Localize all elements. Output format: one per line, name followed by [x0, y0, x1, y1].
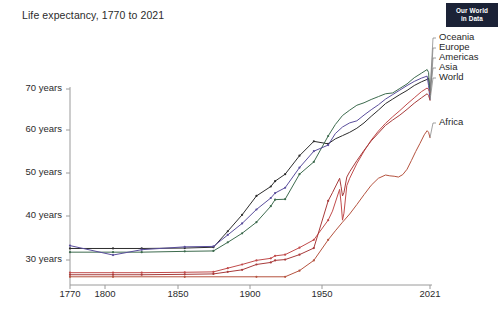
series-point-americas	[255, 208, 257, 210]
chart-container: Life expectancy, 1770 to 2021 Our World …	[0, 0, 502, 318]
y-tick-label: 60 years	[8, 123, 62, 134]
series-point-americas	[241, 222, 243, 224]
series-point-world	[274, 259, 276, 261]
series-point-americas	[313, 150, 315, 152]
series-point-asia	[298, 247, 300, 249]
y-tick-label: 70 years	[8, 82, 62, 93]
series-point-europe	[327, 135, 329, 137]
series-point-oceania	[270, 185, 272, 187]
plot-area	[0, 0, 502, 318]
series-point-americas	[270, 197, 272, 199]
series-point-americas	[69, 245, 71, 247]
series-point-asia	[327, 219, 329, 221]
series-point-africa	[327, 239, 329, 241]
series-point-africa	[184, 276, 186, 278]
series-point-europe	[227, 241, 229, 243]
series-point-oceania	[274, 180, 276, 182]
series-point-europe	[284, 198, 286, 200]
series-point-americas	[327, 144, 329, 146]
y-tick-label: 50 years	[8, 166, 62, 177]
series-point-world	[141, 274, 143, 276]
series-line-world	[70, 94, 430, 275]
series-point-asia	[227, 267, 229, 269]
series-point-africa	[298, 270, 300, 272]
series-point-world	[69, 274, 71, 276]
series-point-americas	[227, 234, 229, 236]
x-tick-label: 1770	[50, 288, 90, 299]
series-point-europe	[241, 232, 243, 234]
series-point-world	[270, 261, 272, 263]
series-point-europe	[313, 161, 315, 163]
series-point-oceania	[298, 155, 300, 157]
x-tick-label: 1850	[158, 288, 198, 299]
series-point-americas	[112, 254, 114, 256]
series-point-world	[212, 273, 214, 275]
series-point-europe	[255, 221, 257, 223]
series-point-europe	[69, 251, 71, 253]
series-point-world	[184, 273, 186, 275]
series-point-europe	[212, 250, 214, 252]
x-tick-label: 1950	[302, 288, 342, 299]
x-tick-label: 2021	[410, 288, 450, 299]
series-point-oceania	[313, 140, 315, 142]
series-point-oceania	[112, 247, 114, 249]
series-point-americas	[284, 187, 286, 189]
series-point-africa	[255, 276, 257, 278]
series-point-europe	[141, 251, 143, 253]
series-point-africa	[112, 276, 114, 278]
series-point-world	[284, 258, 286, 260]
series-point-americas	[298, 167, 300, 169]
series-point-asia	[184, 271, 186, 273]
series-point-asia	[284, 254, 286, 256]
series-point-americas	[274, 192, 276, 194]
series-line-europe	[70, 70, 430, 253]
series-point-world	[241, 269, 243, 271]
series-point-oceania	[241, 214, 243, 216]
series-point-europe	[298, 173, 300, 175]
series-point-europe	[274, 199, 276, 201]
y-tick-label: 30 years	[8, 253, 62, 264]
y-tick-label: 40 years	[8, 209, 62, 220]
series-point-asia	[274, 255, 276, 257]
series-point-oceania	[227, 230, 229, 232]
series-point-africa	[313, 259, 315, 261]
series-leader-africa	[430, 123, 436, 138]
series-label-world[interactable]: World	[439, 71, 464, 82]
series-point-world	[112, 274, 114, 276]
x-tick-label: 1800	[85, 288, 125, 299]
series-point-africa	[69, 276, 71, 278]
series-point-oceania	[255, 195, 257, 197]
series-point-americas	[212, 245, 214, 247]
series-point-oceania	[69, 247, 71, 249]
series-point-asia	[69, 272, 71, 274]
series-point-asia	[270, 257, 272, 259]
series-point-oceania	[284, 173, 286, 175]
series-point-americas	[184, 246, 186, 248]
x-tick-label: 1900	[230, 288, 270, 299]
series-point-world	[227, 271, 229, 273]
series-label-africa[interactable]: Africa	[439, 116, 463, 127]
series-point-world	[327, 200, 329, 202]
series-point-asia	[313, 239, 315, 241]
series-point-asia	[241, 263, 243, 265]
series-point-europe	[184, 250, 186, 252]
series-point-world	[313, 247, 315, 249]
series-point-world	[298, 254, 300, 256]
series-point-asia	[112, 272, 114, 274]
series-point-europe	[112, 251, 114, 253]
series-point-americas	[141, 249, 143, 251]
series-point-world	[255, 263, 257, 265]
series-point-asia	[255, 259, 257, 261]
series-point-africa	[284, 276, 286, 278]
series-point-asia	[141, 272, 143, 274]
series-line-oceania	[70, 78, 430, 248]
series-point-asia	[212, 271, 214, 273]
series-point-europe	[270, 205, 272, 207]
series-line-americas	[70, 76, 430, 255]
